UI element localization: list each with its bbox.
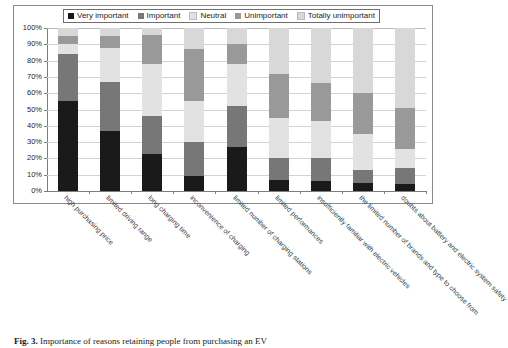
- legend-label: Unimportant: [244, 12, 288, 20]
- bar-stack[interactable]: [269, 28, 289, 191]
- x-axis-tick: [89, 191, 90, 194]
- legend-swatch-icon: [297, 12, 305, 20]
- legend-item[interactable]: Unimportant: [235, 12, 288, 20]
- bar-stack[interactable]: [184, 28, 204, 191]
- bar-segment[interactable]: [353, 134, 373, 170]
- bar-segment[interactable]: [311, 121, 331, 158]
- x-axis-tick: [384, 191, 385, 194]
- y-axis-tick-label: 90%: [27, 41, 42, 49]
- bar-stack[interactable]: [58, 28, 78, 191]
- legend-label: Totally unimportant: [308, 12, 375, 20]
- legend-label: Important: [147, 12, 181, 20]
- bar-segment[interactable]: [227, 64, 247, 106]
- y-axis-tick: [44, 158, 47, 159]
- caption-text: Importance of reasons retaining people f…: [40, 336, 267, 346]
- bar-segment[interactable]: [58, 36, 78, 44]
- legend-label: Very important: [77, 12, 129, 20]
- y-axis-tick: [44, 191, 47, 192]
- bar-segment[interactable]: [184, 49, 204, 101]
- bar-segment[interactable]: [100, 36, 120, 47]
- bar-segment[interactable]: [142, 35, 162, 64]
- bar-segment[interactable]: [353, 28, 373, 93]
- bar-segment[interactable]: [353, 183, 373, 191]
- bar-segment[interactable]: [58, 44, 78, 54]
- bar-segment[interactable]: [353, 93, 373, 134]
- legend-item[interactable]: Very important: [68, 12, 129, 20]
- y-axis-tick: [44, 44, 47, 45]
- bar-segment[interactable]: [395, 108, 415, 149]
- x-axis-tick: [131, 191, 132, 194]
- bar-segment[interactable]: [311, 83, 331, 120]
- bar-segment[interactable]: [269, 28, 289, 74]
- legend-swatch-icon: [235, 13, 241, 19]
- bar-segment[interactable]: [184, 28, 204, 49]
- bar-stack[interactable]: [142, 28, 162, 191]
- legend-item[interactable]: Neutral: [189, 12, 226, 20]
- bar-segment[interactable]: [311, 158, 331, 181]
- bar-segment[interactable]: [184, 101, 204, 142]
- bar-segment[interactable]: [142, 154, 162, 191]
- y-axis-tick-label: 60%: [27, 89, 42, 97]
- caption-number: Fig. 3.: [14, 336, 38, 346]
- y-axis-tick-label: 40%: [27, 122, 42, 130]
- bar-segment[interactable]: [395, 168, 415, 184]
- bar-segment[interactable]: [58, 28, 78, 36]
- bar-segment[interactable]: [269, 118, 289, 159]
- legend-item[interactable]: Totally unimportant: [297, 12, 375, 20]
- bar-segment[interactable]: [142, 116, 162, 153]
- y-axis-tick-label: 80%: [27, 57, 42, 65]
- bar-segment[interactable]: [269, 180, 289, 191]
- legend-label: Neutral: [200, 12, 226, 20]
- y-axis-tick-label: 10%: [27, 171, 42, 179]
- bar-stack[interactable]: [353, 28, 373, 191]
- bar-segment[interactable]: [395, 28, 415, 108]
- y-axis-tick-label: 70%: [27, 73, 42, 81]
- bar-segment[interactable]: [395, 149, 415, 169]
- legend-item[interactable]: Important: [138, 12, 181, 20]
- x-axis-line: [47, 191, 426, 192]
- bar-segment[interactable]: [58, 101, 78, 191]
- bar-segment[interactable]: [311, 28, 331, 83]
- bar-segment[interactable]: [269, 74, 289, 118]
- bar-segment[interactable]: [58, 54, 78, 101]
- bar-segment[interactable]: [100, 131, 120, 191]
- legend-swatch-icon: [68, 13, 74, 19]
- y-axis-tick: [44, 126, 47, 127]
- y-axis-tick: [44, 61, 47, 62]
- bar-segment[interactable]: [100, 48, 120, 82]
- x-axis-tick: [300, 191, 301, 194]
- bar-segment[interactable]: [142, 64, 162, 116]
- bar-stack[interactable]: [395, 28, 415, 191]
- y-axis-tick: [44, 110, 47, 111]
- bar-segment[interactable]: [100, 82, 120, 131]
- legend-swatch-icon: [189, 12, 197, 20]
- x-axis-tick: [215, 191, 216, 194]
- bar-segment[interactable]: [227, 28, 247, 44]
- bar-stack[interactable]: [311, 28, 331, 191]
- y-axis-tick-label: 0%: [31, 187, 42, 195]
- x-axis-tick-label: limited number of charging stations: [231, 194, 313, 276]
- x-axis-tick: [258, 191, 259, 194]
- legend-swatch-icon: [138, 13, 144, 19]
- bar-segment[interactable]: [227, 106, 247, 147]
- y-axis-tick-label: 30%: [27, 138, 42, 146]
- y-axis-tick-label: 20%: [27, 155, 42, 163]
- x-axis-tick-label: insufficiently familiar with electric ve…: [315, 194, 411, 290]
- x-axis-tick: [173, 191, 174, 194]
- chart-legend: Very importantImportantNeutralUnimportan…: [63, 9, 380, 23]
- bar-stack[interactable]: [100, 28, 120, 191]
- bar-segment[interactable]: [395, 184, 415, 191]
- y-axis-tick: [44, 28, 47, 29]
- bar-segment[interactable]: [184, 176, 204, 191]
- bar-stack[interactable]: [227, 28, 247, 191]
- y-axis-tick-label: 50%: [27, 106, 42, 114]
- bar-segment[interactable]: [100, 28, 120, 36]
- x-axis-tick: [426, 191, 427, 194]
- bar-segment[interactable]: [227, 44, 247, 64]
- bar-segment[interactable]: [269, 158, 289, 179]
- bar-segment[interactable]: [227, 147, 247, 191]
- bar-segment[interactable]: [311, 181, 331, 191]
- bar-segment[interactable]: [353, 170, 373, 183]
- bar-segment[interactable]: [184, 142, 204, 176]
